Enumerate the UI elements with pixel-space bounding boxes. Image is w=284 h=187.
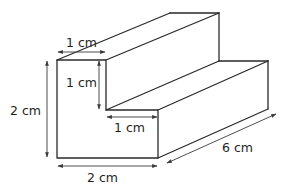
label-length: 6 cm — [222, 140, 253, 155]
label-bottom-width: 2 cm — [87, 170, 118, 185]
label-step-width: 1 cm — [114, 120, 145, 135]
label-upper-height: 1 cm — [66, 75, 97, 90]
label-total-height: 2 cm — [10, 103, 41, 118]
edge-top-right-depth — [106, 13, 219, 60]
edge-inner-step-depth — [106, 61, 219, 110]
label-top-width: 1 cm — [66, 35, 97, 50]
l-shaped-prism-diagram: 1 cm 1 cm 1 cm 2 cm 2 cm 6 cm — [0, 0, 284, 187]
dim-length-arrow — [167, 114, 276, 163]
edge-step-right-depth — [158, 61, 268, 110]
